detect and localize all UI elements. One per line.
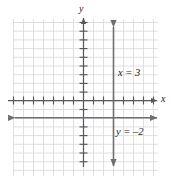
x-axis-label: x (161, 94, 165, 104)
x-axis (8, 97, 157, 105)
equation-label-y-equals-minus-2: y = –2 (116, 127, 144, 138)
coordinate-plane-figure: y x x = 3 y = –2 (0, 0, 172, 181)
y-axis (80, 18, 88, 167)
graph-canvas (0, 0, 172, 181)
equation-label-x-equals-3: x = 3 (118, 68, 140, 79)
y-axis-label: y (79, 4, 83, 14)
